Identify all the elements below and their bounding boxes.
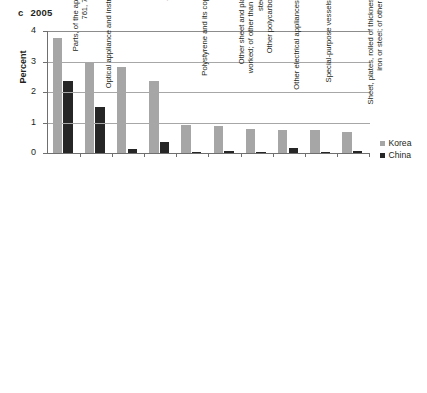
x-axis-category-label: Sheet, plates, rolled of thickness less … xyxy=(366,0,394,158)
bar-korea xyxy=(310,130,320,153)
x-axis-category-label: Special-purpose vessels, floating docks,… xyxy=(324,0,333,158)
x-axis-tick-mark xyxy=(176,153,177,157)
legend-item: Korea xyxy=(380,138,411,150)
legend: KoreaChina xyxy=(380,138,411,161)
x-axis-tick-mark xyxy=(305,153,306,157)
y-axis-ticks: 01234 xyxy=(0,0,44,393)
legend-label: Korea xyxy=(389,138,412,150)
x-axis-category-labels: Parts, of the apparatus of headings 761,… xyxy=(47,158,369,390)
x-axis-tick-mark xyxy=(337,153,338,157)
x-axis-category-label: Parts, of the apparatus of headings 761,… xyxy=(71,0,90,158)
x-axis-category-label: Optical appliance and instruments, nes; … xyxy=(104,0,123,158)
bar-korea xyxy=(342,132,352,153)
legend-item: China xyxy=(380,150,411,162)
x-axis-category-label: Other sheet and plates, of iron or steel… xyxy=(237,0,265,158)
y-axis-tick-label: 0 xyxy=(0,148,36,157)
bar-korea xyxy=(181,125,191,153)
x-axis-category-label: Other polycarboxylic acids and their der… xyxy=(265,0,284,158)
legend-label: China xyxy=(389,150,411,162)
y-axis-tick-label: 2 xyxy=(0,87,36,96)
y-axis-tick-label: 1 xyxy=(0,118,36,127)
x-axis-tick-mark xyxy=(144,153,145,157)
y-axis-tick-label: 4 xyxy=(0,26,36,35)
chart-figure: c2005 Percent 01234 Parts, of the appara… xyxy=(0,0,427,393)
y-axis-tick-label: 3 xyxy=(0,57,36,66)
bar-china xyxy=(224,151,234,153)
bar-korea xyxy=(53,38,63,153)
x-axis-category-label: Other cargo vessels xyxy=(163,0,172,158)
legend-swatch xyxy=(380,153,385,158)
x-axis-category-label: Other electrical appliances and apparatu… xyxy=(292,0,301,158)
x-axis-category-label: Polystyrene and its copolymers, in prima… xyxy=(200,0,219,158)
bar-china xyxy=(353,151,363,153)
x-axis-category-label: Tankers of all kinds xyxy=(131,0,140,158)
legend-swatch xyxy=(380,141,385,146)
